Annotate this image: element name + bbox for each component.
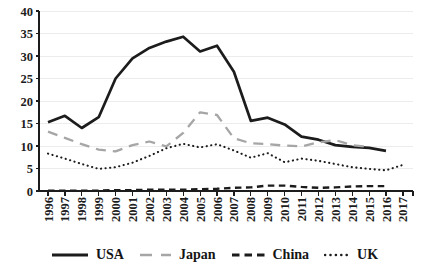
x-tick-label-2015: 2015	[363, 197, 377, 222]
y-tick-label-30: 30	[21, 50, 34, 64]
x-tick-label-2002: 2002	[143, 197, 157, 222]
legend-swatch-china-icon	[231, 249, 266, 261]
x-tick-label-2012: 2012	[312, 197, 326, 222]
y-tick-label-25: 25	[21, 72, 34, 86]
x-tick-label-1999: 1999	[92, 197, 106, 222]
x-tick-label-2017: 2017	[396, 197, 410, 222]
x-tick-label-2009: 2009	[261, 197, 275, 222]
x-tick-label-2006: 2006	[211, 197, 225, 222]
x-tick-label-2007: 2007	[227, 197, 241, 222]
legend-label-china: China	[273, 248, 310, 262]
x-tick-label-1997: 1997	[58, 197, 72, 222]
x-tick-label-1998: 1998	[75, 197, 89, 222]
y-tick-label-10: 10	[21, 140, 34, 154]
legend-swatch-usa-icon	[51, 249, 89, 261]
x-tick-label-2010: 2010	[278, 197, 292, 222]
chart-legend: USAJapanChinaUK	[0, 242, 429, 268]
x-tick-label-1996: 1996	[42, 197, 56, 222]
y-tick-label-35: 35	[21, 27, 34, 41]
x-tick-label-2013: 2013	[329, 197, 343, 222]
line-chart-figure: 0510152025303540199619971998199920002001…	[0, 0, 429, 272]
x-tick-label-2014: 2014	[346, 196, 360, 222]
chart-canvas: 0510152025303540199619971998199920002001…	[0, 0, 429, 272]
y-tick-label-15: 15	[21, 117, 34, 131]
series-line-china	[48, 186, 386, 191]
x-tick-label-2011: 2011	[295, 197, 309, 221]
legend-swatch-uk-icon	[324, 249, 350, 261]
legend-item-uk: UK	[324, 248, 378, 262]
x-tick-label-2008: 2008	[244, 197, 258, 222]
x-tick-label-2004: 2004	[177, 196, 191, 222]
x-tick-label-2000: 2000	[109, 197, 123, 222]
legend-label-japan: Japan	[179, 248, 216, 262]
x-tick-label-2016: 2016	[380, 197, 394, 222]
legend-item-japan: Japan	[139, 248, 216, 262]
legend-label-uk: UK	[357, 248, 378, 262]
series-line-usa	[48, 37, 386, 151]
y-tick-label-5: 5	[27, 162, 33, 176]
legend-item-usa: USA	[51, 248, 124, 262]
legend-swatch-japan-icon	[139, 249, 172, 261]
y-tick-label-40: 40	[21, 5, 34, 19]
x-tick-label-2005: 2005	[194, 197, 208, 222]
y-tick-label-0: 0	[27, 185, 33, 199]
y-tick-label-20: 20	[21, 95, 34, 109]
x-tick-label-2003: 2003	[160, 197, 174, 222]
legend-item-china: China	[231, 248, 310, 262]
x-tick-label-2001: 2001	[126, 197, 140, 222]
legend-label-usa: USA	[96, 248, 124, 262]
